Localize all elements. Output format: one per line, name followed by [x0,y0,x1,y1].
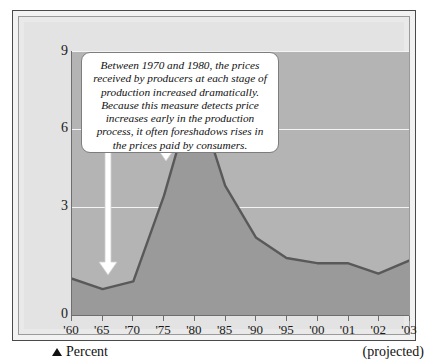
percent-legend-label: Percent [66,344,108,360]
x-tick-11 [409,316,410,321]
triangle-up-icon [52,348,62,356]
callout-text: Between 1970 and 1980, the prices receiv… [91,59,269,152]
projected-note: (projected) [363,344,424,360]
percent-legend: Percent [52,344,108,360]
chart-card: 9 6 3 0 '60'65'70'75'80'85'90'95'00'01'0… [24,22,404,329]
callout-box: Between 1970 and 1980, the prices receiv… [81,52,279,153]
figure-footer: Percent (projected) [52,341,424,363]
